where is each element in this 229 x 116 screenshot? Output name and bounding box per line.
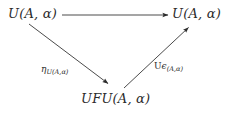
epsilon-subscript: (A,α) bbox=[167, 65, 183, 73]
node-bottom: UFU(A, α) bbox=[81, 92, 150, 105]
node-top-left: U(A, α) bbox=[8, 7, 57, 20]
node-top-right: U(A, α) bbox=[172, 7, 221, 20]
arrow-right-diagonal bbox=[124, 28, 189, 89]
u-functor-symbol: U bbox=[154, 61, 162, 71]
eta-subscript: U(A,α) bbox=[46, 68, 68, 76]
edge-label-counit-u-epsilon: Uϵ(A,α) bbox=[154, 62, 183, 72]
commutative-diagram: U(A, α) U(A, α) UFU(A, α) ηU(A,α) Uϵ(A,α… bbox=[0, 0, 229, 116]
edge-label-unit-eta: ηU(A,α) bbox=[41, 65, 68, 75]
